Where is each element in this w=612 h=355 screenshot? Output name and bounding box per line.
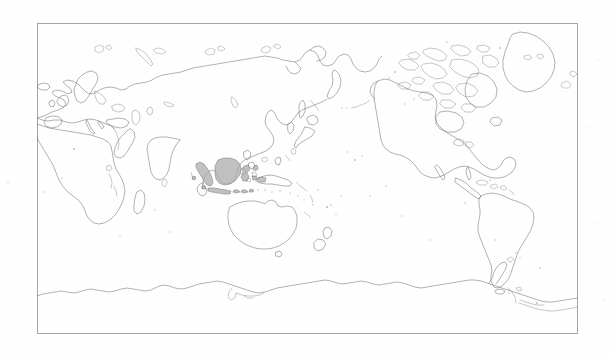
world-map-figure xyxy=(0,0,612,355)
map-background xyxy=(0,0,612,355)
world-map-svg xyxy=(0,0,612,355)
page-canvas xyxy=(0,0,612,355)
